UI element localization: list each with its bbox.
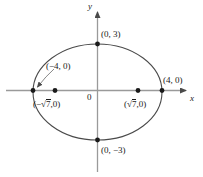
sqrt-glyph-left: √7 [41,99,50,109]
label-focus-left-suffix: ,0) [51,99,61,109]
label-focus-right-radicand: 7 [132,99,137,109]
label-vertex-left: (−4, 0) [46,62,71,71]
y-axis-label: y [88,2,92,11]
point-vertex-right [160,88,165,93]
x-axis-label: x [190,94,194,103]
label-focus-right: (√7,0) [124,99,146,109]
point-covertex-top [95,42,100,47]
label-covertex-bottom: (0, −3) [101,146,126,155]
left-vertex-leader-line [38,69,55,87]
label-covertex-top: (0, 3) [101,30,121,39]
label-focus-right-suffix: ,0) [136,99,146,109]
point-focus-right [136,88,141,93]
ellipse-figure: y x 0 (0, 3) (0, −3) (4, 0) (−4, 0) (−√7… [0,0,203,177]
point-focus-left [53,88,58,93]
label-focus-left-radicand: 7 [46,99,51,109]
origin-label: 0 [87,93,92,102]
label-vertex-right: (4, 0) [163,76,183,85]
sqrt-glyph-right: √7 [127,99,136,109]
label-focus-left-prefix: (− [33,99,41,109]
label-focus-left: (−√7,0) [33,99,60,109]
point-vertex-left [31,88,36,93]
point-covertex-bottom [95,138,100,143]
